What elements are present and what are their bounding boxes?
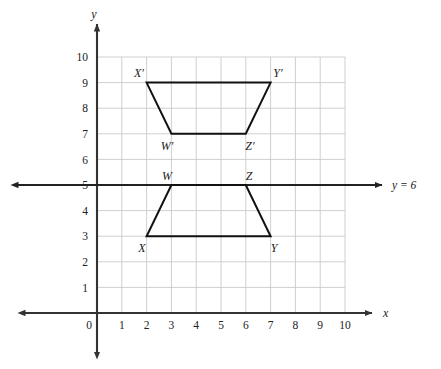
x-tick-7: 7 [268, 319, 274, 331]
y-tick-2: 2 [82, 256, 88, 268]
vertex-label-z-prime: Z′ [245, 139, 255, 153]
y-tick-10: 10 [77, 51, 89, 63]
x-tick-5: 5 [218, 319, 224, 331]
vertex-label-y: Y [271, 241, 279, 255]
x-tick-4: 4 [193, 319, 199, 331]
vertex-label-x: X [137, 241, 146, 255]
axis-name-labels: x y y = 6 [90, 7, 416, 320]
x-tick-9: 9 [317, 319, 323, 331]
y-tick-4: 4 [82, 205, 88, 217]
x-tick-8: 8 [293, 319, 299, 331]
x-tick-3: 3 [169, 319, 175, 331]
x-tick-labels: 0 1 2 3 4 5 6 7 8 9 10 [86, 319, 351, 331]
x-tick-origin: 0 [86, 319, 92, 331]
vertex-label-w-prime: W′ [161, 139, 174, 153]
y-tick-8: 8 [82, 102, 88, 114]
x-tick-2: 2 [144, 319, 150, 331]
y-tick-labels: 1 2 3 4 5 6 7 8 9 10 [77, 51, 89, 293]
y-tick-5: 5 [82, 179, 88, 191]
coordinate-plane-figure: 0 1 2 3 4 5 6 7 8 9 10 1 2 3 4 5 6 7 8 9… [0, 0, 441, 369]
vertex-label-y-prime: Y′ [273, 66, 283, 80]
vertex-label-x-prime: X′ [133, 66, 144, 80]
y-tick-9: 9 [82, 77, 88, 89]
x-axis-label: x [382, 306, 389, 320]
coordinate-plane-svg: 0 1 2 3 4 5 6 7 8 9 10 1 2 3 4 5 6 7 8 9… [0, 0, 441, 369]
vertex-labels-image: X′ Y′ W′ Z′ [133, 66, 283, 153]
x-tick-1: 1 [119, 319, 125, 331]
y-tick-7: 7 [82, 128, 88, 140]
y-axis-label: y [90, 7, 97, 21]
x-tick-10: 10 [339, 319, 351, 331]
y-tick-1: 1 [82, 282, 88, 294]
reflection-line-label: y = 6 [391, 179, 417, 192]
x-tick-6: 6 [243, 319, 249, 331]
y-tick-3: 3 [82, 230, 88, 242]
vertex-label-w: W [162, 169, 173, 183]
y-tick-6: 6 [82, 154, 88, 166]
vertex-label-z: Z [246, 169, 253, 183]
